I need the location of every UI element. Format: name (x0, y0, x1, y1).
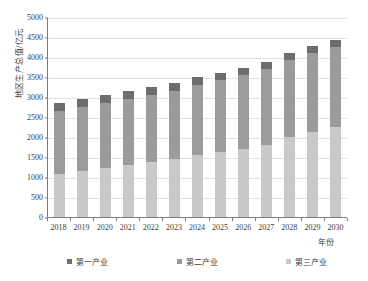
stacked-bar[interactable] (215, 73, 226, 217)
stacked-bar[interactable] (77, 99, 88, 217)
bar-slot[interactable] (94, 18, 117, 217)
bar-segment[interactable] (330, 127, 341, 217)
bar-segment[interactable] (123, 99, 134, 165)
x-axis-tick-mark (278, 218, 279, 221)
bar-segment[interactable] (54, 174, 65, 217)
legend-item[interactable]: 第二产业 (177, 256, 218, 267)
bar-segment[interactable] (100, 103, 111, 168)
bar-segment[interactable] (123, 165, 134, 217)
legend-swatch-icon (286, 259, 291, 264)
x-axis-tick-label: 2030 (324, 223, 347, 232)
y-axis-tick-label: 5000 (27, 14, 43, 22)
x-axis-tick-mark (116, 218, 117, 221)
stacked-bar[interactable] (100, 95, 111, 217)
stacked-bar[interactable] (261, 62, 272, 217)
bar-segment[interactable] (100, 168, 111, 217)
bar-segment[interactable] (146, 87, 157, 95)
stacked-bar[interactable] (307, 46, 318, 217)
bar-segment[interactable] (169, 159, 180, 217)
y-axis-tick-label: 1500 (27, 154, 43, 162)
x-axis-tick-label: 2019 (70, 223, 93, 232)
stacked-bar[interactable] (146, 87, 157, 217)
x-axis-tick-label: 2018 (47, 223, 70, 232)
bar-segment[interactable] (100, 95, 111, 103)
x-axis-tick-mark (209, 218, 210, 221)
x-axis-tick-mark (162, 218, 163, 221)
bar-segment[interactable] (284, 53, 295, 60)
x-axis-tick-mark (301, 218, 302, 221)
bar-slot[interactable] (163, 18, 186, 217)
x-axis-tick-mark (324, 218, 325, 221)
stacked-bar-chart: 地区生产总值/亿元 050010001500200025003000350040… (0, 0, 368, 281)
stacked-bar[interactable] (192, 77, 203, 217)
bar-segment[interactable] (261, 145, 272, 217)
bar-segment[interactable] (77, 171, 88, 217)
bar-segment[interactable] (330, 40, 341, 47)
bar-slot[interactable] (71, 18, 94, 217)
bar-slot[interactable] (140, 18, 163, 217)
bar-slot[interactable] (117, 18, 140, 217)
stacked-bar[interactable] (284, 53, 295, 217)
bar-segment[interactable] (215, 73, 226, 80)
bar-segment[interactable] (192, 85, 203, 155)
x-axis-tick-label: 2025 (209, 223, 232, 232)
legend-item[interactable]: 第一产业 (67, 256, 108, 267)
y-axis-tick-label: 500 (31, 194, 43, 202)
bar-segment[interactable] (123, 91, 134, 99)
x-axis-tick-mark (139, 218, 140, 221)
bar-slot[interactable] (278, 18, 301, 217)
legend-label: 第三产业 (295, 256, 327, 267)
y-axis-tick-label: 4500 (27, 34, 43, 42)
bar-segment[interactable] (192, 77, 203, 85)
legend-swatch-icon (177, 259, 182, 264)
x-axis-tick-label: 2021 (116, 223, 139, 232)
bar-segment[interactable] (54, 111, 65, 174)
bar-segment[interactable] (284, 60, 295, 137)
bar-slot[interactable] (255, 18, 278, 217)
bar-segment[interactable] (54, 103, 65, 111)
bar-segment[interactable] (307, 132, 318, 217)
x-axis-tick-label: 2026 (232, 223, 255, 232)
bar-segment[interactable] (238, 75, 249, 148)
bar-segment[interactable] (77, 99, 88, 107)
bar-segment[interactable] (261, 69, 272, 144)
bar-segment[interactable] (330, 47, 341, 127)
x-axis-tick-mark (347, 218, 348, 221)
y-axis-tick-label: 4000 (27, 54, 43, 62)
x-axis-tick-mark (93, 218, 94, 221)
bar-segment[interactable] (146, 162, 157, 217)
bar-slot[interactable] (324, 18, 347, 217)
legend-label: 第二产业 (186, 256, 218, 267)
bar-slot[interactable] (232, 18, 255, 217)
stacked-bar[interactable] (238, 68, 249, 217)
y-axis-tick-label: 3000 (27, 94, 43, 102)
y-axis-tick-label: 2500 (27, 114, 43, 122)
stacked-bar[interactable] (330, 40, 341, 217)
bar-segment[interactable] (238, 68, 249, 75)
x-axis-tick-label: 2029 (301, 223, 324, 232)
bar-slot[interactable] (186, 18, 209, 217)
legend-item[interactable]: 第三产业 (286, 256, 327, 267)
bar-segment[interactable] (215, 152, 226, 217)
y-axis-title: 地区生产总值/亿元 (13, 0, 24, 134)
bar-segment[interactable] (146, 95, 157, 162)
bar-segment[interactable] (192, 155, 203, 217)
x-axis-tick-mark (185, 218, 186, 221)
bar-segment[interactable] (261, 62, 272, 69)
bar-slot[interactable] (48, 18, 71, 217)
bar-segment[interactable] (77, 107, 88, 171)
x-axis-labels: 2018201920202021202220232024202520262027… (47, 223, 347, 232)
stacked-bar[interactable] (54, 103, 65, 217)
bar-segment[interactable] (215, 80, 226, 152)
bar-segment[interactable] (307, 53, 318, 132)
bar-slot[interactable] (301, 18, 324, 217)
stacked-bar[interactable] (169, 83, 180, 217)
bar-segment[interactable] (169, 83, 180, 91)
x-axis-tick-label: 2023 (162, 223, 185, 232)
bar-segment[interactable] (169, 91, 180, 159)
bar-segment[interactable] (284, 137, 295, 217)
stacked-bar[interactable] (123, 91, 134, 217)
bar-segment[interactable] (238, 149, 249, 217)
bar-slot[interactable] (209, 18, 232, 217)
bar-segment[interactable] (307, 46, 318, 53)
